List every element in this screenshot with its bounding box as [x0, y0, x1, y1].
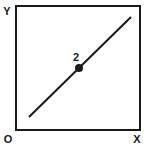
point-marker	[75, 64, 83, 72]
point-label: 2	[73, 51, 79, 63]
y-axis-label: Y	[3, 5, 11, 17]
x-axis-label: X	[133, 133, 141, 144]
origin-label: O	[4, 133, 13, 144]
diagram-canvas: 2 Y O X	[0, 0, 144, 144]
